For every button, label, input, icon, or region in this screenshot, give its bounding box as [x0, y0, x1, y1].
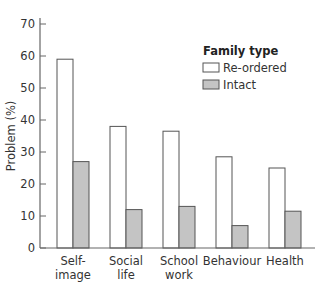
x-category-label: Social	[109, 254, 143, 268]
bar-re-ordered	[110, 126, 126, 248]
x-category-label: Self-	[60, 254, 85, 268]
y-tick-label: 0	[28, 241, 35, 255]
legend: Family typeRe-orderedIntact	[203, 44, 287, 92]
x-category-label: School	[160, 254, 198, 268]
bar-intact	[126, 210, 142, 248]
x-category-label: Behaviour	[203, 254, 262, 268]
bar-intact	[232, 226, 248, 248]
y-axis-title: Problem (%)	[4, 101, 18, 172]
y-tick-label: 40	[20, 113, 35, 127]
y-axis: 010203040506070	[20, 17, 46, 255]
bar-intact	[179, 206, 195, 248]
bar-re-ordered	[269, 168, 285, 248]
y-tick-label: 70	[20, 17, 35, 31]
y-tick-label: 50	[20, 81, 35, 95]
bar-re-ordered	[57, 59, 73, 248]
y-tick-label: 20	[20, 177, 35, 191]
x-category-label: Health	[266, 254, 304, 268]
x-axis: Self-imageSociallifeSchoolworkBehaviourH…	[40, 248, 315, 282]
legend-label: Intact	[223, 78, 257, 92]
x-category-label: image	[55, 268, 91, 282]
bar-intact	[285, 211, 301, 248]
bars	[57, 59, 301, 248]
legend-swatch	[203, 63, 219, 72]
x-category-label: life	[117, 268, 135, 282]
legend-label: Re-ordered	[223, 61, 287, 75]
legend-swatch	[203, 80, 219, 89]
bar-re-ordered	[163, 131, 179, 248]
y-tick-label: 10	[20, 209, 35, 223]
bar-intact	[73, 162, 89, 248]
y-tick-label: 60	[20, 49, 35, 63]
x-category-label: work	[165, 268, 193, 282]
bar-re-ordered	[216, 157, 232, 248]
bar-chart: 010203040506070 Self-imageSociallifeScho…	[0, 0, 328, 290]
legend-title: Family type	[203, 44, 279, 58]
y-tick-label: 30	[20, 145, 35, 159]
